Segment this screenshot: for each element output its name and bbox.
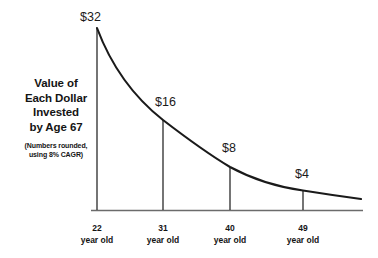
chart-footnote: (Numbers rounded, using 8% CAGR) <box>6 141 106 160</box>
y-axis-title-text: Value of Each Dollar Invested by Age 67 <box>6 76 106 135</box>
x-tick-unit-49: year old <box>263 234 343 246</box>
data-label-age-31: $16 <box>155 95 176 109</box>
x-tick-unit-40: year old <box>190 234 270 246</box>
data-label-age-22: $32 <box>80 10 101 24</box>
data-label-age-40: $8 <box>222 141 236 155</box>
y-axis-title-line-2: Each Dollar <box>6 91 106 106</box>
chart-container: Value of Each Dollar Invested by Age 67 … <box>0 0 378 258</box>
chart-footnote-line-1: (Numbers rounded, <box>6 141 106 150</box>
x-tick-label-age-49: 49 year old <box>263 222 343 247</box>
x-tick-age-40: 40 <box>190 222 270 234</box>
y-axis-title-line-4: by Age 67 <box>6 120 106 135</box>
y-axis-title: Value of Each Dollar Invested by Age 67 … <box>6 76 106 160</box>
data-label-age-49: $4 <box>295 167 309 181</box>
x-tick-label-age-40: 40 year old <box>190 222 270 247</box>
y-axis-title-line-3: Invested <box>6 105 106 120</box>
chart-footnote-line-2: using 8% CAGR) <box>6 150 106 159</box>
y-axis-title-line-1: Value of <box>6 76 106 91</box>
value-decay-curve <box>97 28 361 199</box>
x-tick-age-49: 49 <box>263 222 343 234</box>
